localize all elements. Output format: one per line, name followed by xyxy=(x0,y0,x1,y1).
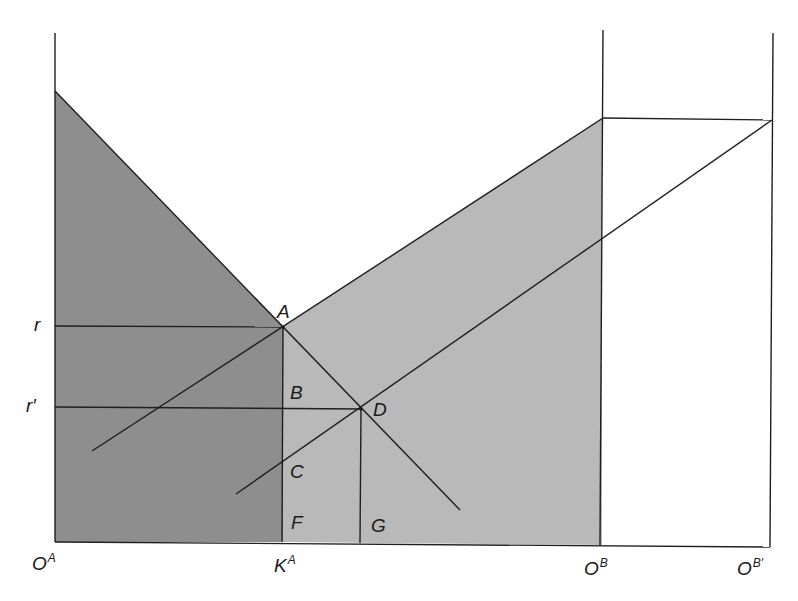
light-region xyxy=(283,118,602,545)
label-f: F xyxy=(291,513,303,532)
label-b: B xyxy=(290,383,303,402)
d-vertical xyxy=(360,409,361,543)
label-origin-a: OA xyxy=(32,554,56,573)
label-origin-b-prime: OB′ xyxy=(737,559,763,578)
diagram-svg xyxy=(0,0,798,601)
label-c: C xyxy=(290,462,304,481)
point-a-dot xyxy=(281,325,285,329)
label-r: r xyxy=(34,315,40,334)
label-origin-b: OB xyxy=(584,559,608,578)
label-g: G xyxy=(371,516,386,535)
label-a: A xyxy=(277,302,290,321)
label-k-a: KA xyxy=(274,556,296,575)
point-d-dot xyxy=(359,407,363,411)
label-d: D xyxy=(373,400,387,419)
axis-ob-prime-vertical xyxy=(770,33,773,547)
label-r-prime: r′ xyxy=(26,396,36,415)
diagram-canvas: A B C D F G r r′ OA KA OB OB′ xyxy=(0,0,798,601)
dark-region xyxy=(55,91,283,542)
top-connector xyxy=(603,118,772,120)
